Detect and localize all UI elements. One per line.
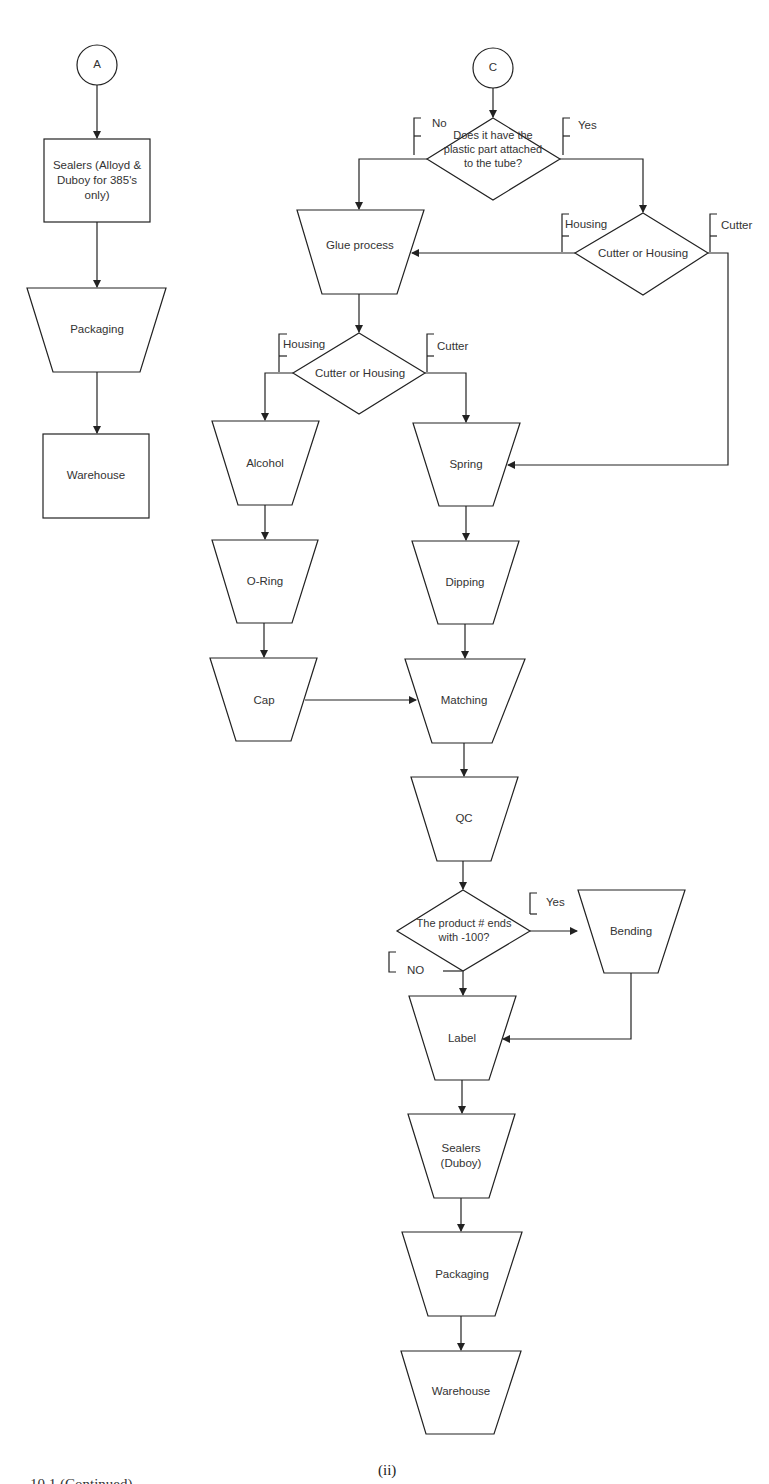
qc-label: QC: [424, 811, 504, 826]
sealers-alloyd-label: Sealers (Alloyd & Duboy for 385's only): [48, 158, 146, 203]
glue-process-label: Glue process: [320, 238, 400, 253]
decision-cutter-housing-1-label: Cutter or Housing: [583, 246, 703, 261]
cutter-tag-2: Cutter: [437, 340, 468, 352]
dipping-label: Dipping: [425, 575, 505, 590]
spring-label: Spring: [426, 457, 506, 472]
connector-c-label: C: [473, 60, 513, 75]
figure-caption-clipped: 10.1 (Continued): [30, 1477, 133, 1484]
matching-label: Matching: [424, 693, 504, 708]
cutter-tag-1: Cutter: [721, 219, 752, 231]
warehouse-left-label: Warehouse: [43, 468, 149, 483]
connector-a-label: A: [77, 57, 117, 72]
figure-sublabel: (ii): [378, 1462, 396, 1479]
decision-plastic-part-label: Does it have the plastic part attached t…: [440, 128, 546, 170]
no-tag-product: NO: [407, 964, 424, 976]
yes-tag-product: Yes: [546, 896, 565, 908]
decision-cutter-housing-2-label: Cutter or Housing: [300, 366, 420, 381]
cap-label: Cap: [224, 693, 304, 708]
label-step-label: Label: [422, 1031, 502, 1046]
warehouse-right-label: Warehouse: [420, 1384, 502, 1399]
housing-tag-2: Housing: [283, 338, 325, 350]
sealers-duboy-label: Sealers (Duboy): [428, 1141, 494, 1171]
bending-label: Bending: [591, 924, 671, 939]
alcohol-label: Alcohol: [225, 456, 305, 471]
decision-product-100-label: The product # ends with -100?: [408, 916, 520, 944]
packaging-right-label: Packaging: [421, 1267, 503, 1282]
flowchart-canvas: [0, 0, 769, 1484]
packaging-left-label: Packaging: [47, 322, 147, 337]
yes-tag-plastic: Yes: [578, 119, 597, 131]
no-tag-plastic: No: [432, 117, 447, 129]
oring-label: O-Ring: [225, 574, 305, 589]
housing-tag-1: Housing: [565, 218, 607, 230]
